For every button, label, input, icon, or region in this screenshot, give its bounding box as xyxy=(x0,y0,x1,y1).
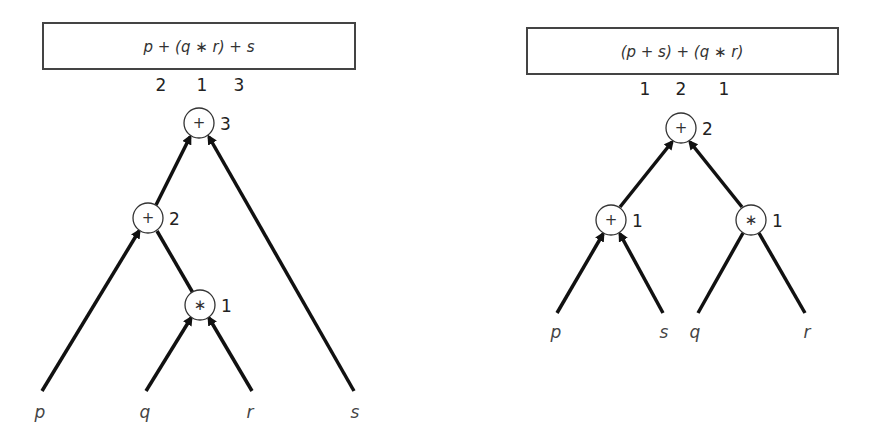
left-leaf-r: r xyxy=(247,402,255,422)
left-expression: p + (q ∗ r) + s xyxy=(142,38,254,56)
right-edge-times-to-root xyxy=(690,142,742,207)
left-leaf-q: q xyxy=(140,402,151,422)
left-times-order: 1 xyxy=(221,296,232,316)
left-root-node: + 3 xyxy=(184,108,231,138)
right-leaf-p: p xyxy=(550,322,562,342)
left-edge-r-to-times xyxy=(209,318,252,391)
left-edge-plus-to-root xyxy=(156,137,190,205)
left-precedence-label-3: 3 xyxy=(234,75,245,95)
plus-icon: + xyxy=(675,119,688,137)
left-edge-times-to-plus xyxy=(157,231,193,293)
right-root-node: + 2 xyxy=(666,113,713,143)
right-root-order: 2 xyxy=(702,119,713,139)
right-leaf-q: q xyxy=(690,322,701,342)
right-precedence-label-3: 1 xyxy=(719,79,730,99)
right-edge-s-to-plus xyxy=(620,234,663,313)
left-times-node: ∗ 1 xyxy=(185,290,232,320)
left-precedence-label-2: 1 xyxy=(197,75,208,95)
right-precedence-label-2: 2 xyxy=(676,79,687,99)
right-edge-plus-to-root xyxy=(620,142,672,207)
right-tree: (p + s) + (q ∗ r) 1 2 1 + 2 + 1 ∗ 1 p s xyxy=(527,28,838,342)
left-edge-p-to-plus xyxy=(42,231,139,391)
right-leaf-s: s xyxy=(660,322,669,342)
plus-icon: + xyxy=(142,209,155,227)
left-edge-q-to-times xyxy=(146,318,191,391)
left-plus-node: + 2 xyxy=(133,203,180,233)
right-times-order: 1 xyxy=(772,211,783,231)
right-leaf-r: r xyxy=(804,322,812,342)
left-leaf-p: p xyxy=(34,402,46,422)
asterisk-icon: ∗ xyxy=(745,211,758,229)
left-tree: p + (q ∗ r) + s 2 1 3 + 3 + 2 ∗ 1 p q r xyxy=(34,23,360,422)
right-expression: (p + s) + (q ∗ r) xyxy=(621,43,744,61)
right-plus-node: + 1 xyxy=(596,205,643,235)
right-precedence-label-1: 1 xyxy=(640,79,651,99)
plus-icon: + xyxy=(605,211,618,229)
right-edge-p-to-plus xyxy=(557,234,603,313)
left-plus-order: 2 xyxy=(169,209,180,229)
right-edge-r-to-times xyxy=(759,233,805,313)
right-times-node: ∗ 1 xyxy=(736,205,783,235)
left-root-order: 3 xyxy=(220,114,231,134)
left-precedence-label-1: 2 xyxy=(156,75,167,95)
right-edge-q-to-times xyxy=(698,233,743,313)
right-plus-order: 1 xyxy=(632,211,643,231)
left-leaf-s: s xyxy=(351,402,360,422)
expression-trees-diagram: p + (q ∗ r) + s 2 1 3 + 3 + 2 ∗ 1 p q r xyxy=(0,0,871,448)
asterisk-icon: ∗ xyxy=(194,296,207,314)
plus-icon: + xyxy=(193,114,206,132)
